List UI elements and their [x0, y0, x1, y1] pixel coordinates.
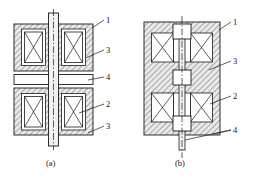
label-b-4: 4 — [233, 125, 238, 135]
subfigure-a: 1 3 4 2 3 (a) — [14, 9, 111, 168]
label-a-3-top: 3 — [106, 45, 110, 55]
label-b-1: 1 — [233, 17, 237, 27]
engineering-diagram: 1 3 4 2 3 (a) — [0, 0, 261, 177]
figure-root: 1 3 4 2 3 (a) — [0, 0, 261, 177]
caption-b: (b) — [175, 158, 185, 168]
label-a-2: 2 — [106, 99, 110, 109]
label-a-4: 4 — [106, 72, 111, 82]
subfigure-b: 1 3 2 4 (b) — [144, 16, 238, 168]
caption-a: (a) — [46, 158, 56, 168]
label-a-3-bottom: 3 — [106, 121, 110, 131]
label-a-1: 1 — [106, 15, 110, 25]
label-b-2: 2 — [233, 91, 237, 101]
label-b-3: 3 — [233, 56, 237, 66]
